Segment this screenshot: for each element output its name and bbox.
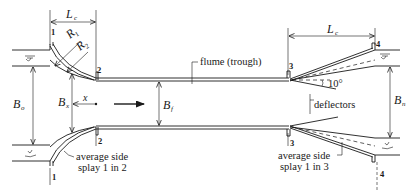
svg-text:1: 1 <box>52 172 56 182</box>
dimension-distance-x: x <box>73 92 97 105</box>
svg-text:L: L <box>65 7 73 21</box>
svg-text:o: o <box>21 104 25 112</box>
dimension-inlet-length: L c <box>51 7 95 22</box>
svg-text:3: 3 <box>289 61 293 71</box>
outlet-splay-note: average side splay 1 in 3 <box>278 142 342 172</box>
flume-label: flume (trough) <box>192 56 262 84</box>
svg-text:B: B <box>58 95 66 109</box>
svg-text:B: B <box>163 98 171 112</box>
dimension-downstream-width: B n <box>390 67 406 137</box>
svg-text:2: 2 <box>98 136 102 146</box>
deflectors-label: deflectors <box>310 94 355 114</box>
water-level-symbol-upstream-top <box>25 56 35 61</box>
dimension-throat-width: B f <box>159 82 174 125</box>
svg-text:4: 4 <box>380 169 385 179</box>
water-level-symbol-downstream-top <box>380 54 390 59</box>
svg-text:splay 1 in 2: splay 1 in 2 <box>78 162 127 173</box>
svg-text:x: x <box>65 102 70 110</box>
flume-plan-diagram: L c L c R 1 R 2 B o B x x B f <box>0 0 413 195</box>
inlet-splay-note: average side splay 1 in 2 <box>64 151 129 173</box>
svg-text:2: 2 <box>97 65 101 75</box>
dimension-section-width: B x <box>58 74 72 132</box>
water-level-symbol-downstream-bottom <box>382 142 393 149</box>
angle-label: 10° <box>328 78 343 89</box>
svg-text:flume (trough): flume (trough) <box>200 56 262 68</box>
svg-text:average side: average side <box>76 151 129 162</box>
dimension-upstream-width: B o <box>13 67 33 144</box>
water-level-symbol-upstream-bottom <box>25 150 36 157</box>
svg-text:c: c <box>74 14 78 22</box>
svg-text:10°: 10° <box>328 78 343 89</box>
svg-text:f: f <box>171 105 174 113</box>
svg-text:B: B <box>13 97 21 111</box>
dimension-outlet-length: L c <box>289 22 374 37</box>
svg-text:deflectors: deflectors <box>314 99 355 110</box>
svg-text:4: 4 <box>376 39 381 49</box>
svg-text:average side: average side <box>278 150 331 161</box>
svg-text:1: 1 <box>51 27 55 37</box>
dimension-radii: R 1 R 2 <box>55 25 91 72</box>
svg-text:x: x <box>82 92 88 103</box>
svg-text:splay 1 in 3: splay 1 in 3 <box>280 161 329 172</box>
svg-text:3: 3 <box>290 138 294 148</box>
svg-text:L: L <box>326 22 334 36</box>
svg-text:n: n <box>402 100 406 108</box>
svg-text:B: B <box>394 93 402 107</box>
